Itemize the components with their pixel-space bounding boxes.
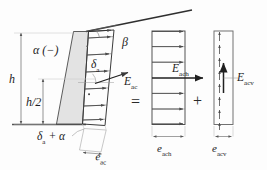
E-ach-glyph: E [172, 62, 179, 74]
label-E-acv: Eacv [237, 72, 254, 86]
label-E-ach: Each [172, 63, 189, 77]
delta-a-plus-alpha-subscript: a [42, 138, 45, 146]
delta-a-subscript: a [96, 66, 99, 74]
label-alpha-negative: α (−) [33, 44, 58, 56]
label-beta: β [122, 36, 128, 48]
e-ac-subscript: ac [100, 159, 107, 166]
figure-container: α (−) β h h/2 δa Eac Each Eacv δa + α ea… [0, 0, 267, 170]
label-e-ach: each [157, 143, 171, 157]
label-delta-a: δa [91, 59, 100, 73]
label-e-acv: eacv [212, 143, 226, 157]
vertical-pressure-panel [214, 31, 238, 137]
E-acv-subscript: acv [244, 79, 254, 87]
E-ac-subscript: ac [131, 83, 137, 91]
e-acv-subscript: acv [217, 150, 226, 157]
label-E-ac: Eac [124, 76, 137, 90]
delta-a-plus-alpha-angle [72, 129, 84, 136]
label-h-half: h/2 [26, 96, 41, 108]
delta-a-plus-alpha-tail: + α [46, 130, 66, 142]
label-e-ac: eac [95, 151, 107, 166]
backfill-slope-line [86, 10, 192, 32]
E-acv-glyph: E [237, 71, 244, 83]
e-ac-dimension [80, 124, 107, 154]
E-ac-glyph: E [124, 75, 131, 87]
plus-operator: + [193, 93, 202, 109]
label-h: h [9, 73, 15, 85]
label-delta-a-plus-alpha: δa + α [37, 131, 65, 145]
E-ach-subscript: ach [179, 70, 189, 78]
equals-operator: = [131, 94, 140, 110]
horizontal-pressure-panel [152, 31, 203, 137]
e-ach-subscript: ach [162, 150, 171, 157]
